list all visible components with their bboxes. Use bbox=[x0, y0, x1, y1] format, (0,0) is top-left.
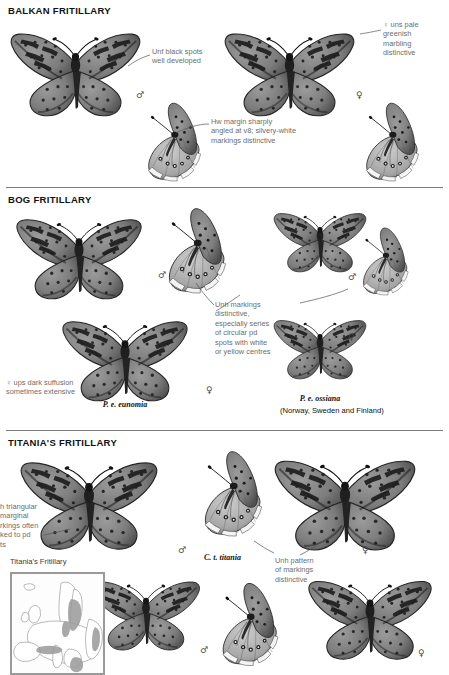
leader-lines-bog bbox=[0, 185, 449, 435]
symbol-female-titania-lower: ♀ bbox=[418, 648, 425, 658]
symbol-male-titania-lower: ♂ bbox=[200, 645, 208, 655]
subspecies-name-eunomia: P. e. eunomia bbox=[75, 400, 175, 409]
symbol-male-titania-upper: ♂ bbox=[178, 545, 186, 555]
symbol-female-bog-eunomia: ♀ bbox=[206, 385, 213, 395]
symbol-female-titania-upper: ♀ bbox=[362, 545, 369, 555]
subspecies-region-ossiana: (Norway, Sweden and Finland) bbox=[280, 406, 440, 415]
distribution-map-titania bbox=[10, 572, 105, 675]
symbol-male-bog-ossiana: ♂ bbox=[348, 272, 356, 282]
symbol-female-bog-ossiana: ♀ bbox=[348, 332, 355, 342]
symbol-female-balkan: ♀ bbox=[356, 90, 363, 100]
map-caption-titania: Titania's Fritillary bbox=[10, 557, 66, 566]
symbol-male-balkan: ♂ bbox=[136, 90, 144, 100]
subspecies-name-ct-titania: C. t. titania bbox=[204, 553, 284, 562]
leader-lines-balkan bbox=[0, 0, 449, 200]
symbol-male-bog-eunomia: ♂ bbox=[158, 270, 166, 280]
subspecies-name-ossiana: P. e. ossiana bbox=[272, 394, 368, 403]
